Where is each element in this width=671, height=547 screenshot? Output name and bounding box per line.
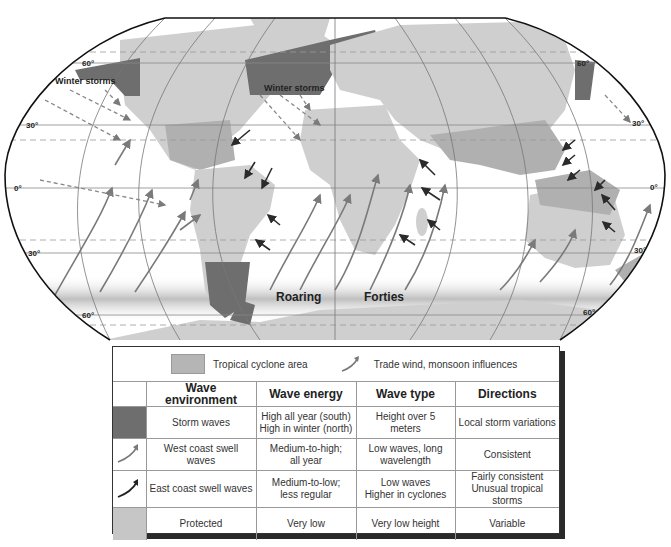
directions-line: Unusual tropical storms bbox=[459, 483, 557, 507]
directions-line: Fairly consistent bbox=[459, 471, 557, 483]
type-line: Higher in cyclones bbox=[360, 489, 452, 501]
energy-line: Medium-to-high; bbox=[260, 443, 353, 455]
lat-30s-left-label: 30° bbox=[28, 249, 40, 258]
table-row-protected: Protected Very low Very low height Varia… bbox=[113, 508, 559, 540]
tropical-cyclone-label: Tropical cyclone area bbox=[213, 359, 308, 370]
lat-0-right-label: 0° bbox=[650, 183, 658, 192]
lat-30s-right-label: 30° bbox=[634, 246, 646, 255]
table-header-row: Wave environment Wave energy Wave type D… bbox=[113, 382, 559, 407]
lat-0-left-label: 0° bbox=[14, 184, 22, 193]
lat-30n-right-label: 30° bbox=[632, 119, 644, 128]
energy-line: High all year (south) bbox=[260, 411, 353, 423]
cell-type: Height over 5 meters bbox=[356, 407, 455, 439]
wave-environment-table: Wave environment Wave energy Wave type D… bbox=[113, 382, 559, 540]
forties-label: Forties bbox=[364, 290, 404, 304]
cell-directions: Variable bbox=[455, 508, 559, 540]
energy-line: less regular bbox=[260, 489, 353, 501]
legend-panel: Tropical cyclone area Trade wind, monsoo… bbox=[112, 346, 560, 534]
storm-waves-swatch bbox=[113, 407, 146, 439]
trade-wind-label: Trade wind, monsoon influences bbox=[374, 359, 518, 370]
lat-60n-right-label: 60° bbox=[577, 59, 589, 68]
header-wave-environment: Wave environment bbox=[146, 382, 256, 407]
roaring-label: Roaring bbox=[276, 290, 321, 304]
cell-energy: Medium-to-high; all year bbox=[256, 439, 356, 471]
table-row-storm-waves: Storm waves High all year (south) High i… bbox=[113, 407, 559, 439]
tropical-cyclone-swatch bbox=[171, 354, 205, 374]
lat-30n-left-label: 30° bbox=[26, 121, 38, 130]
energy-line: High in winter (north) bbox=[260, 423, 353, 435]
winter-storms-atlantic-label: Winter storms bbox=[264, 83, 324, 93]
protected-swatch bbox=[113, 508, 146, 540]
type-line: Low waves bbox=[360, 477, 452, 489]
cell-type: Low waves, long wavelength bbox=[356, 439, 455, 471]
table-row-west-coast-swell: West coast swell waves Medium-to-high; a… bbox=[113, 439, 559, 471]
lat-60s-right-label: 60° bbox=[583, 308, 595, 317]
cell-directions: Consistent bbox=[455, 439, 559, 471]
cell-environment: West coast swell waves bbox=[146, 439, 256, 471]
east-swell-arrow-icon bbox=[113, 471, 146, 508]
type-line: wavelength bbox=[360, 455, 452, 467]
cell-environment: Storm waves bbox=[146, 407, 256, 439]
header-directions: Directions bbox=[455, 382, 559, 407]
cell-type: Low waves Higher in cyclones bbox=[356, 471, 455, 508]
cell-directions: Fairly consistent Unusual tropical storm… bbox=[455, 471, 559, 508]
cell-environment: East coast swell waves bbox=[146, 471, 256, 508]
winter-storms-pacific-label: Winter storms bbox=[55, 76, 115, 86]
cell-type: Very low height bbox=[356, 508, 455, 540]
table-row-east-coast-swell: East coast swell waves Medium-to-low; le… bbox=[113, 471, 559, 508]
cell-directions: Local storm variations bbox=[455, 407, 559, 439]
cell-environment: Protected bbox=[146, 508, 256, 540]
header-wave-type: Wave type bbox=[356, 382, 455, 407]
cell-energy: Medium-to-low; less regular bbox=[256, 471, 356, 508]
type-line: Low waves, long bbox=[360, 443, 452, 455]
west-swell-arrow-icon bbox=[113, 439, 146, 471]
energy-line: all year bbox=[260, 455, 353, 467]
energy-line: Medium-to-low; bbox=[260, 477, 353, 489]
header-wave-energy: Wave energy bbox=[256, 382, 356, 407]
header-symbol bbox=[113, 382, 146, 407]
cell-energy: High all year (south) High in winter (no… bbox=[256, 407, 356, 439]
world-map: 60° 60° 30° 30° 0° 0° 30° 30° 60° 60° Wi… bbox=[0, 0, 671, 350]
map-graphic bbox=[0, 0, 671, 350]
lat-60s-left-label: 60° bbox=[82, 311, 94, 320]
cell-energy: Very low bbox=[256, 508, 356, 540]
legend-key: Tropical cyclone area Trade wind, monsoo… bbox=[113, 347, 559, 382]
lat-60n-left-label: 60° bbox=[82, 59, 94, 68]
trade-wind-arrow-icon bbox=[340, 355, 362, 373]
